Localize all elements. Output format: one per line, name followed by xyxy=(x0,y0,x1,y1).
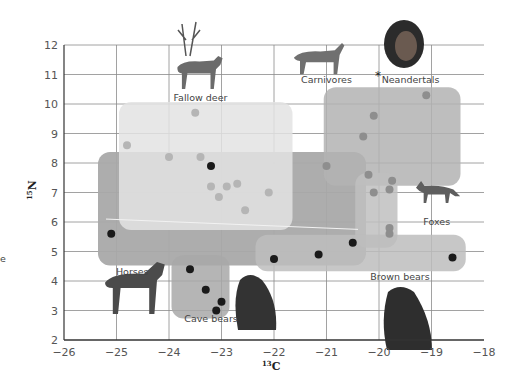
point-fallow-deer xyxy=(223,183,231,191)
point-horses xyxy=(207,162,215,170)
label-cave-bears: Cave bears xyxy=(184,313,238,324)
point-fallow-deer xyxy=(215,193,223,201)
cave-bear-icon xyxy=(235,275,276,330)
y-tick: 2 xyxy=(51,334,58,347)
point-fallow-deer xyxy=(241,206,249,214)
point-horses xyxy=(349,239,357,247)
antlers-icon xyxy=(178,22,200,56)
label-brown-bears: Brown bears xyxy=(370,271,429,282)
y-tick: 11 xyxy=(44,69,58,82)
isotope-scatter-chart: *Fallow deerCarnivoresNeandertalsFoxesHo… xyxy=(0,0,517,380)
point-cave-bears xyxy=(202,286,210,294)
y-tick: 7 xyxy=(51,187,58,200)
neandertal-face-icon xyxy=(395,31,417,61)
point-fallow-deer xyxy=(265,189,273,197)
y-tick: 9 xyxy=(51,128,58,141)
x-tick: −20 xyxy=(367,346,390,359)
x-tick: −25 xyxy=(105,346,128,359)
region-carnivores xyxy=(324,87,461,186)
point-fallow-deer xyxy=(233,180,241,188)
x-tick: −23 xyxy=(210,346,233,359)
y-tick: 10 xyxy=(44,98,58,111)
region-brown-bears xyxy=(256,235,466,272)
point-carnivores xyxy=(365,171,373,179)
point-brown-bears xyxy=(449,253,457,261)
label-horses: Horses xyxy=(116,266,149,277)
point-foxes xyxy=(388,177,396,185)
point-foxes xyxy=(386,230,394,238)
label-fallow-deer: Fallow deer xyxy=(174,92,228,103)
point-cave-bears xyxy=(186,265,194,273)
y-tick: 8 xyxy=(51,157,58,170)
point-carnivores xyxy=(422,91,430,99)
neandertal-marker: * xyxy=(375,69,381,83)
point-fallow-deer xyxy=(191,109,199,117)
point-horses xyxy=(107,230,115,238)
point-brown-bears xyxy=(315,250,323,258)
x-tick: −26 xyxy=(52,346,75,359)
point-fallow-deer xyxy=(197,153,205,161)
label-foxes: Foxes xyxy=(423,216,450,227)
label-carnivores: Carnivores xyxy=(301,74,352,85)
x-tick: −22 xyxy=(262,346,285,359)
point-brown-bears xyxy=(270,255,278,263)
cat-icon xyxy=(294,43,344,74)
y-tick: 5 xyxy=(51,246,58,259)
y-axis-title: 15N xyxy=(25,180,39,200)
x-axis-title: 13C xyxy=(262,359,281,373)
x-tick: −19 xyxy=(420,346,443,359)
point-fallow-deer xyxy=(207,183,215,191)
point-fallow-deer xyxy=(123,141,131,149)
y-tick: 4 xyxy=(51,275,58,288)
x-tick: −24 xyxy=(157,346,180,359)
point-foxes xyxy=(370,189,378,197)
x-tick: −18 xyxy=(472,346,495,359)
deer-icon xyxy=(177,56,222,89)
point-carnivores xyxy=(323,162,331,170)
point-foxes xyxy=(386,186,394,194)
region-cave-bears xyxy=(172,255,230,318)
x-tick: −21 xyxy=(315,346,338,359)
legend-fragment: e xyxy=(0,253,6,264)
point-fallow-deer xyxy=(165,153,173,161)
y-tick: 6 xyxy=(51,216,58,229)
point-carnivores xyxy=(370,112,378,120)
y-tick: 12 xyxy=(44,39,58,52)
point-cave-bears xyxy=(218,298,226,306)
y-tick: 3 xyxy=(51,305,58,318)
region-fallow-deer xyxy=(119,102,293,230)
label-neandertals: Neandertals xyxy=(382,74,440,85)
point-carnivores xyxy=(359,132,367,140)
